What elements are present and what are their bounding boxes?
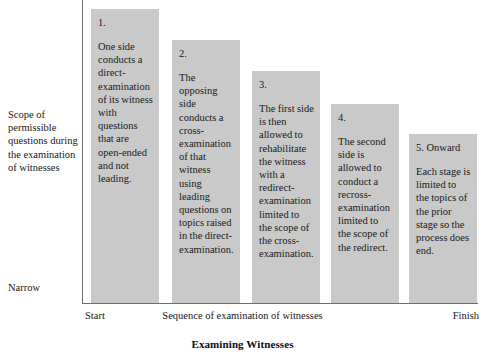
- x-axis-finish-label: Finish: [453, 309, 479, 322]
- y-axis-low-tick-label: Narrow: [8, 281, 40, 294]
- x-axis-line: [82, 303, 478, 304]
- bar-stage-5-number: 5. Onward: [416, 141, 471, 154]
- y-axis-line: [82, 0, 83, 304]
- bar-stage-3-text: The first side is then allowed to rehabi…: [259, 102, 314, 260]
- bar-stage-4-text: The second side is allowed to conduct a …: [338, 135, 393, 254]
- bar-stage-5-text: Each stage is limited to the topics of t…: [416, 165, 471, 257]
- bar-stage-2-text: The opposing side conducts a cross-exami…: [179, 71, 234, 256]
- bar-stage-4: 4. The second side is allowed to conduct…: [331, 104, 399, 303]
- bar-stage-5: 5. Onward Each stage is limited to the t…: [409, 134, 477, 303]
- y-axis-label: Scope of permissible questions during th…: [8, 108, 80, 174]
- bar-chart: Scope of permissible questions during th…: [0, 0, 485, 359]
- bar-stage-3-number: 3.: [259, 78, 314, 91]
- bar-stage-2: 2. The opposing side conducts a cross-ex…: [172, 40, 240, 303]
- bar-stage-1: 1. One side conducts a direct-examinatio…: [91, 9, 159, 303]
- bar-stage-1-text: One side conducts a direct-examination o…: [98, 40, 153, 185]
- bar-stage-4-number: 4.: [338, 111, 393, 124]
- bar-stage-2-number: 2.: [179, 47, 234, 60]
- x-axis-label: Sequence of examination of witnesses: [0, 309, 485, 322]
- bar-stage-3: 3. The first side is then allowed to reh…: [252, 71, 320, 303]
- bar-stage-1-number: 1.: [98, 16, 153, 29]
- chart-title: Examining Witnesses: [0, 337, 485, 351]
